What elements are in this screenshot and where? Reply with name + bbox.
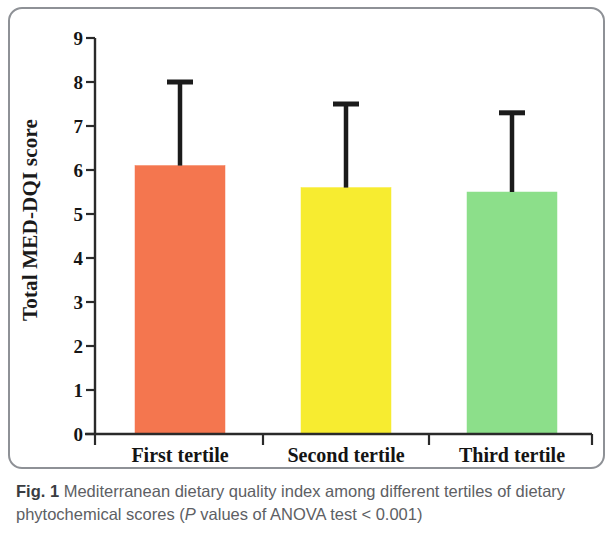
figure-number: Fig. 1 [16,482,59,500]
caption-p-symbol: P [185,505,196,523]
y-tick-label: 7 [57,117,83,136]
y-tick-label: 9 [57,29,83,48]
y-tick-label: 4 [57,249,83,268]
figure-caption: Fig. 1 Mediterranean dietary quality ind… [16,480,602,527]
x-category-label-3: Third tertile [417,444,607,467]
y-tick-label: 1 [57,381,83,400]
y-tick-label: 3 [57,293,83,312]
y-tick-label: 0 [57,425,83,444]
y-tick-label: 6 [57,161,83,180]
caption-text-part2: values of ANOVA test < 0.001) [196,505,423,523]
x-category-label-1: First tertile [85,444,275,467]
y-tick-label: 5 [57,205,83,224]
y-tick-label: 2 [57,337,83,356]
figure-frame [8,7,605,469]
y-tick-label: 8 [57,73,83,92]
x-category-label-2: Second tertile [251,444,441,467]
figure-container: Total MED-DQI score 0123456789 First ter… [0,0,613,538]
y-axis-title: Total MED-DQI score [18,90,48,350]
